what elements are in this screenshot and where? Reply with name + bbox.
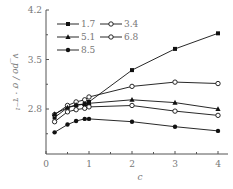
legend-item-8.5: 8.5 xyxy=(57,45,96,55)
legend-label: 5.1 xyxy=(81,32,95,42)
marker-filled-circle xyxy=(74,119,78,123)
legend-item-6.8: 6.8 xyxy=(100,32,139,42)
marker-open-circle xyxy=(216,81,220,85)
series-8.5 xyxy=(52,117,220,135)
series-line xyxy=(55,119,218,132)
marker-filled-circle xyxy=(65,122,69,126)
marker-open-circle xyxy=(87,95,91,99)
x-tick-label: 1 xyxy=(86,159,92,169)
series-line xyxy=(55,82,218,115)
legend-item-5.1: 5.1 xyxy=(57,32,95,42)
y-axis-label: v_po / σ · τ⁻¹ xyxy=(10,53,21,111)
series-line xyxy=(55,100,218,114)
series-group xyxy=(52,31,221,134)
y-tick-label: 3.5 xyxy=(28,55,43,65)
legend-label: 8.5 xyxy=(81,45,96,55)
marker-open-circle xyxy=(173,80,177,84)
marker-square xyxy=(173,47,177,51)
marker-open-circle xyxy=(52,120,56,124)
marker-open-circle xyxy=(109,22,113,26)
y-tick-label: 4.2 xyxy=(28,5,42,15)
marker-open-circle xyxy=(83,106,87,110)
marker-triangle xyxy=(129,97,134,102)
legend-item-3.4: 3.4 xyxy=(100,19,139,29)
line-chart: 2.83.54.201234 1.73.45.16.88.5 c v_po / … xyxy=(0,0,233,189)
marker-filled-circle xyxy=(173,124,177,128)
legend-label: 3.4 xyxy=(124,19,139,29)
marker-open-circle xyxy=(130,84,134,88)
marker-open-circle xyxy=(130,103,134,107)
x-tick-label: 4 xyxy=(215,159,221,169)
marker-square xyxy=(216,31,220,35)
marker-filled-circle xyxy=(66,48,70,52)
marker-open-circle xyxy=(74,108,78,112)
marker-square xyxy=(66,22,70,26)
legend-label: 6.8 xyxy=(124,32,139,42)
marker-open-circle xyxy=(173,109,177,113)
x-tick-label: 0 xyxy=(43,159,49,169)
marker-open-circle xyxy=(109,35,113,39)
marker-filled-circle xyxy=(216,129,220,133)
marker-open-circle xyxy=(65,110,69,114)
marker-open-circle xyxy=(87,105,91,109)
series-line xyxy=(55,106,218,122)
marker-filled-circle xyxy=(52,130,56,134)
legend-label: 1.7 xyxy=(81,19,96,29)
x-tick-label: 3 xyxy=(172,159,178,169)
marker-filled-circle xyxy=(130,120,134,124)
x-tick-label: 2 xyxy=(129,159,135,169)
y-tick-label: 2.8 xyxy=(28,104,43,114)
marker-open-circle xyxy=(216,113,220,117)
legend: 1.73.45.16.88.5 xyxy=(57,19,139,55)
marker-filled-circle xyxy=(83,117,87,121)
marker-square xyxy=(130,68,134,72)
marker-filled-circle xyxy=(87,117,91,121)
x-axis-label: c xyxy=(137,172,142,182)
legend-item-1.7: 1.7 xyxy=(57,19,96,29)
